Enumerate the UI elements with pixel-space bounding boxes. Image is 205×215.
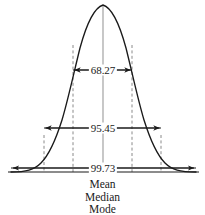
interval-label-one-sigma: 68.27 — [89, 65, 117, 76]
stat-label-median: Median — [0, 191, 205, 204]
center-stat-labels: Mean Median Mode — [0, 178, 205, 215]
stat-label-mode: Mode — [0, 203, 205, 215]
stat-label-mean: Mean — [0, 178, 205, 191]
interval-label-two-sigma: 95.45 — [89, 123, 117, 134]
interval-label-three-sigma: 99.73 — [89, 163, 117, 174]
sigma-gridlines — [44, 5, 161, 172]
normal-distribution-figure: 68.27 95.45 99.73 Mean Median Mode — [0, 0, 205, 215]
